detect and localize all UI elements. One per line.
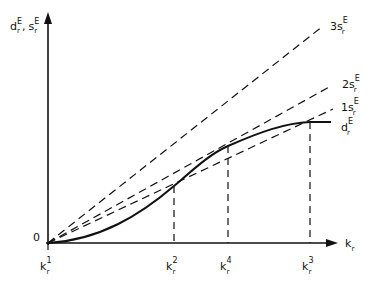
tick-label-k2: k2r	[166, 256, 177, 276]
tick-label-k1: k1r	[40, 256, 51, 276]
origin-label: 0	[33, 231, 40, 244]
label-2s: 2sEr	[342, 74, 360, 94]
x-axis-label: kr	[345, 237, 354, 253]
line-2s	[48, 86, 331, 243]
tick-label-k3: k3r	[302, 256, 313, 276]
label-3s: 3sEr	[330, 16, 348, 36]
x-axis-arrow-icon	[326, 239, 338, 247]
y-axis-label: dEr,sEr	[10, 17, 39, 35]
curve-dE	[48, 122, 331, 243]
label-dE: dEr	[341, 117, 353, 137]
line-1s	[48, 109, 333, 243]
label-1s: 1sEr	[341, 97, 359, 117]
line-3s	[48, 26, 323, 243]
y-axis-arrow-icon	[44, 12, 52, 24]
tick-label-k4: k4r	[220, 256, 231, 276]
diagram-canvas: dEr,sEr 0 kr 3sEr 2sEr 1sEr dEr k1r k2r …	[0, 0, 368, 289]
